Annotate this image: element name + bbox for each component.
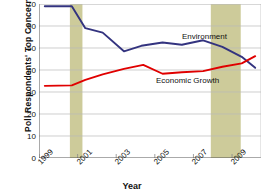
economic-growth-series-label: Economic Growth (156, 76, 219, 85)
x-axis-title: Year (0, 181, 264, 191)
y-tick-label: 70 (14, 0, 36, 9)
y-tick-label: 50 (14, 44, 36, 53)
y-tick-label: 10 (14, 132, 36, 141)
y-tick-label: 40 (14, 66, 36, 75)
plot-area: Environment Economic Growth (39, 4, 261, 158)
y-tick-label: 30 (14, 88, 36, 97)
y-tick-label: 20 (14, 110, 36, 119)
environment-series-label: Environment (182, 32, 227, 41)
y-tick-label: 60 (14, 22, 36, 31)
poll-concern-line-chart: Poll Respondents' Top Concern 0102030405… (0, 0, 264, 196)
plot-svg (39, 4, 261, 158)
